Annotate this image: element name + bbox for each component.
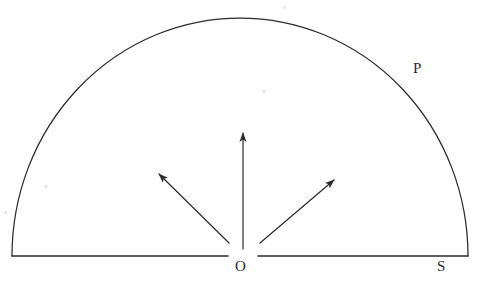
arrow-up-right (260, 180, 334, 243)
baseline-endpoint-label-s: S (437, 259, 446, 274)
scan-speck (44, 185, 48, 188)
scan-speck (283, 6, 286, 9)
arrow-up-left (159, 174, 229, 243)
semicircular-arc (12, 18, 468, 256)
diagram-svg (0, 0, 484, 291)
figure-canvas: P O S (0, 0, 484, 291)
scan-speck (4, 211, 7, 214)
scan-speck (262, 90, 266, 93)
arc-label-p: P (413, 61, 422, 76)
center-label-o: O (235, 259, 246, 274)
